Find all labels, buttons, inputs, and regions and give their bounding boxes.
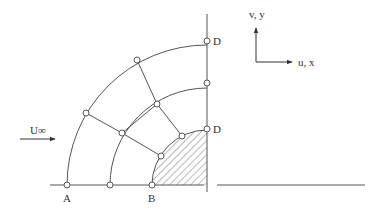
node-mid-70 <box>154 101 160 107</box>
flow-grid-diagram: A B D D U∞ v, y u, x <box>0 0 380 209</box>
diagram-canvas: A B D D U∞ v, y u, x <box>0 0 380 209</box>
node-mid-90 <box>204 80 210 86</box>
grid-line-2 <box>137 60 182 136</box>
node-outer-70 <box>134 57 140 63</box>
node-B <box>149 182 155 188</box>
node-A <box>64 182 70 188</box>
label-D-top: D <box>213 35 221 47</box>
node-inner-45 <box>158 153 164 159</box>
node-mid-45 <box>119 130 125 136</box>
label-axis-u: u, x <box>298 56 315 68</box>
node-D-inner <box>204 126 210 132</box>
node-inner-70 <box>179 133 185 139</box>
label-A: A <box>63 192 71 204</box>
grid-line-3 <box>122 104 157 133</box>
label-D-inner: D <box>213 123 221 135</box>
node-outer-45 <box>83 110 89 116</box>
label-axis-v: v, y <box>249 8 265 20</box>
label-B: B <box>148 192 155 204</box>
node-mid-base <box>107 182 113 188</box>
label-freestream: U∞ <box>30 124 46 136</box>
node-D-top <box>204 38 210 44</box>
